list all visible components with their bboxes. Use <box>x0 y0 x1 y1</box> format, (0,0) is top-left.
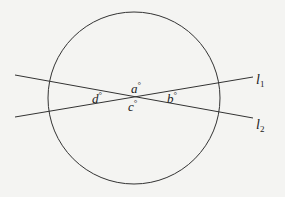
angle-d-label: d° <box>92 90 103 106</box>
angle-a-label: a° <box>131 80 142 96</box>
label-l1: l1 <box>256 72 264 89</box>
circle-lines-diagram: l1 l2 a° b° c° d° <box>0 0 285 197</box>
label-l2: l2 <box>256 117 264 134</box>
angle-c-label: c° <box>128 98 138 114</box>
